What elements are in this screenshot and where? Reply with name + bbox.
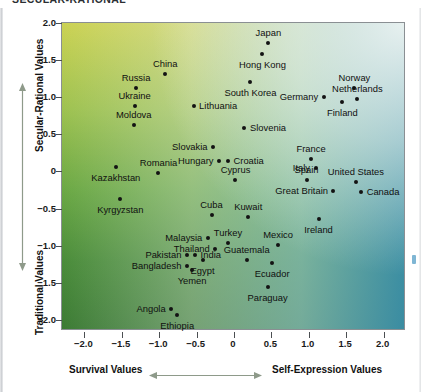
y-tick-label: 2.0 [30, 17, 56, 28]
point-label: Ukraine [118, 91, 150, 100]
point-marker [266, 285, 270, 289]
point-label: Hungary [178, 156, 213, 165]
point-label: Slovenia [250, 123, 286, 132]
point-label: Lithuania [199, 101, 237, 110]
x-tick-label: 0.5 [264, 338, 277, 349]
point-label: Kuwait [234, 201, 262, 210]
y-tick-label: 1.0 [30, 91, 56, 102]
point-label: Paraguay [248, 293, 288, 302]
point-label: China [153, 59, 178, 68]
point-label: Germany [280, 93, 319, 102]
point-label: Great Britain [275, 187, 328, 196]
y-tick [56, 97, 62, 98]
point-marker [206, 236, 210, 240]
point-marker [331, 189, 335, 193]
y-tick [56, 246, 62, 247]
point-label: Malaysia [165, 234, 202, 243]
point-label: Kyrgyzstan [97, 205, 143, 214]
point-label: France [296, 143, 325, 152]
point-label: Ethiopia [160, 321, 194, 330]
point-marker [169, 307, 173, 311]
point-label: Pakistan [145, 250, 181, 259]
x-axis-title-right: Self-Expression Values [272, 364, 382, 375]
y-tick [56, 320, 62, 321]
point-label: Moldova [116, 110, 151, 119]
point-label: Norway [339, 73, 371, 82]
point-marker [245, 258, 249, 262]
point-label: Japan [256, 28, 282, 37]
point-marker [132, 123, 136, 127]
point-label: Yemen [178, 276, 207, 285]
y-tick-label: −1.0 [30, 239, 56, 250]
point-marker [355, 97, 359, 101]
y-tick [56, 134, 62, 135]
point-marker [322, 95, 326, 99]
point-marker [163, 72, 167, 76]
chart-canvas: SECULAR-RATIONAL Secular-Rational Values… [0, 0, 421, 392]
point-marker [270, 261, 274, 265]
point-marker [305, 178, 309, 182]
page-title: SECULAR-RATIONAL [12, 0, 126, 5]
x-axis-direction-arrow [148, 371, 263, 380]
point-marker [309, 157, 313, 161]
point-marker [114, 165, 118, 169]
point-marker [233, 178, 237, 182]
cropped-title-strip: SECULAR-RATIONAL [0, 0, 421, 7]
y-tick-label: 0 [30, 165, 56, 176]
point-label: Russia [122, 72, 151, 81]
point-label: Finland [327, 108, 358, 117]
point-marker [359, 190, 363, 194]
x-tick-label: 0 [230, 338, 235, 349]
point-marker [210, 213, 214, 217]
x-tick-label: −1.0 [149, 338, 168, 349]
y-tick [56, 283, 62, 284]
point-label: Hong Kong [239, 60, 286, 69]
point-label: South Korea [224, 88, 276, 97]
point-marker [201, 258, 205, 262]
point-marker [118, 197, 122, 201]
x-tick-label: 2.0 [376, 338, 389, 349]
scan-speckle [412, 255, 416, 264]
y-tick-label: −0.5 [30, 202, 56, 213]
point-marker [276, 243, 280, 247]
point-label: Romania [140, 158, 178, 167]
point-label: Ecuador [255, 269, 290, 278]
point-marker [217, 159, 221, 163]
point-marker [242, 126, 246, 130]
point-marker [193, 253, 197, 257]
point-marker [260, 52, 264, 56]
x-tick-label: −1.5 [111, 338, 130, 349]
point-marker [226, 159, 230, 163]
point-label: Bangladesh [132, 262, 182, 271]
y-tick-label: 1.5 [30, 54, 56, 65]
x-tick-label: 1.0 [301, 338, 314, 349]
point-label: Mexico [263, 230, 293, 239]
point-label: Kazakhstan [91, 173, 140, 182]
point-label: United States [328, 166, 384, 175]
point-marker [190, 268, 194, 272]
y-tick [56, 209, 62, 210]
point-label: Slovakia [172, 142, 207, 151]
scan-edge-left [0, 8, 3, 392]
point-marker [133, 104, 137, 108]
point-marker [317, 217, 321, 221]
y-axis-direction-arrow [18, 82, 27, 272]
point-label: Guatemala [224, 244, 270, 253]
point-marker [211, 145, 215, 149]
point-label: Cyprus [221, 165, 251, 174]
point-marker [340, 100, 344, 104]
x-tick-label: −0.5 [186, 338, 205, 349]
x-axis-title-left: Survival Values [69, 364, 142, 375]
point-marker [192, 104, 196, 108]
y-tick-label: 0.5 [30, 128, 56, 139]
x-tick-label: −2.0 [74, 338, 93, 349]
point-marker [156, 171, 160, 175]
plot-area: JapanHong KongChinaSouth KoreaRussiaNorw… [61, 22, 405, 330]
y-tick [56, 23, 62, 24]
point-label: Turkey [214, 228, 242, 237]
point-marker [175, 313, 179, 317]
point-label: Canada [367, 188, 400, 197]
x-tick-label: 1.5 [339, 338, 352, 349]
point-marker [354, 180, 358, 184]
point-label: Angola [136, 305, 165, 314]
